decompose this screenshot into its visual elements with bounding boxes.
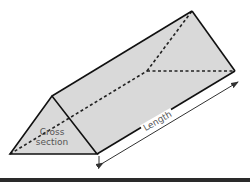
prism-drawing <box>0 0 250 182</box>
triangular-prism-diagram: Cross section Length <box>0 0 250 182</box>
cross-section-label-line2: section <box>27 137 77 147</box>
cross-section-label-line1: Cross <box>27 127 77 137</box>
cross-section-label: Cross section <box>27 127 77 147</box>
bottom-border-bar <box>0 178 250 182</box>
